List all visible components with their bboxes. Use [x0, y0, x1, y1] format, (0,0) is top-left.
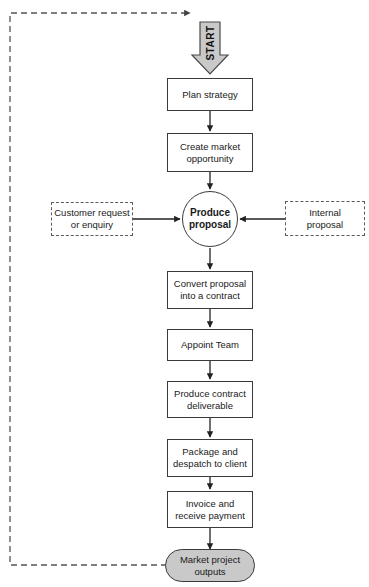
start-label: START: [193, 23, 227, 63]
node-market-project-outputs[interactable]: Market project outputs: [165, 549, 255, 582]
node-customer-request-or-enquiry[interactable]: Customer request or enquiry: [51, 202, 133, 236]
flowchart-canvas: START Plan strategy Create market opport…: [0, 0, 369, 587]
node-produce-proposal[interactable]: Produce proposal: [182, 191, 238, 247]
node-convert-proposal[interactable]: Convert proposal into a contract: [167, 271, 253, 309]
node-create-market-opportunity[interactable]: Create market opportunity: [167, 133, 253, 172]
node-produce-contract-deliverable[interactable]: Produce contract deliverable: [167, 381, 253, 418]
node-invoice-receive-payment[interactable]: Invoice and receive payment: [167, 491, 253, 528]
node-package-despatch-to-client[interactable]: Package and despatch to client: [167, 439, 253, 477]
node-appoint-team[interactable]: Appoint Team: [167, 329, 253, 361]
node-internal-proposal[interactable]: Internal proposal: [285, 201, 365, 236]
feedback-loop-connector: [10, 13, 190, 565]
node-plan-strategy[interactable]: Plan strategy: [167, 78, 253, 111]
